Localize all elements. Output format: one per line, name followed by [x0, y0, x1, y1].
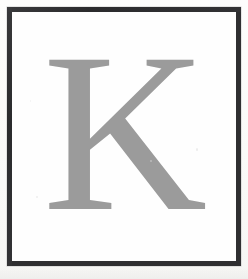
glyph-container: K	[12, 12, 236, 261]
scanned-page: K	[0, 0, 248, 279]
capital-letter-k-glyph: K	[43, 35, 208, 231]
